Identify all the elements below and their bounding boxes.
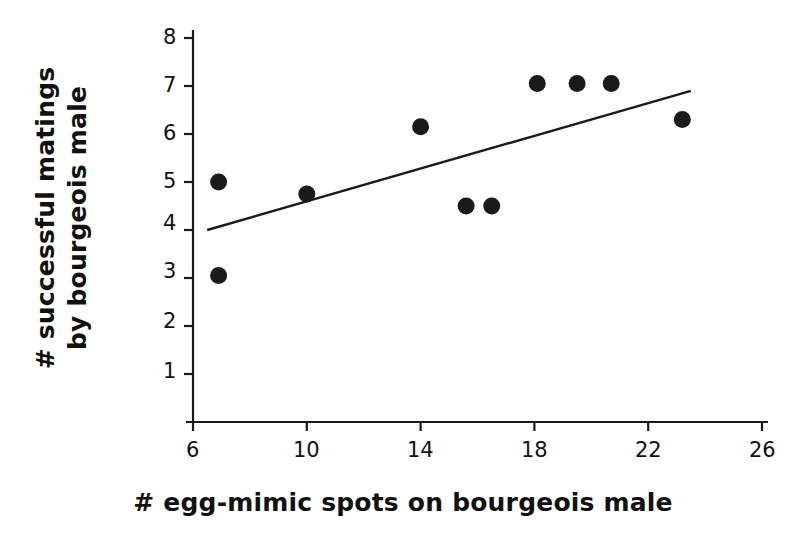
x-tick-label-22: 22 [635,440,662,461]
data-point [412,118,429,135]
trend-line [207,91,691,230]
data-point [210,267,227,284]
y-tick-label-5: 5 [163,171,176,192]
y-axis-title: # successful matings by bourgeois male [30,38,94,398]
data-point [674,111,691,128]
x-tick-label-10: 10 [293,440,320,461]
x-axis-ticks [193,422,762,431]
x-tick-label-6: 6 [186,440,199,461]
x-tick-label-14: 14 [407,440,434,461]
scatter-plot-figure: 8 7 6 5 4 3 2 1 6 10 14 18 22 26 # succe… [0,0,806,558]
y-tick-label-4: 4 [163,213,176,234]
y-tick-label-7: 7 [163,75,176,96]
data-point-group [210,75,691,284]
y-tick-label-2: 2 [163,311,176,332]
data-point [569,75,586,92]
y-tick-label-6: 6 [163,123,176,144]
y-tick-label-1: 1 [163,361,176,382]
x-axis-title: # egg-mimic spots on bourgeois male [0,488,806,517]
data-point [483,198,500,215]
plot-canvas [0,0,806,558]
x-tick-label-26: 26 [749,440,776,461]
data-point [458,198,475,215]
data-point [210,174,227,191]
y-axis-ticks [184,38,193,374]
x-tick-label-18: 18 [521,440,548,461]
data-point [529,75,546,92]
data-point [298,186,315,203]
y-axis-title-line-2: by bourgeois male [62,38,94,398]
data-point [603,75,620,92]
y-axis-title-line-1: # successful matings [30,38,62,398]
y-tick-label-3: 3 [163,261,176,282]
y-tick-label-8: 8 [163,27,176,48]
